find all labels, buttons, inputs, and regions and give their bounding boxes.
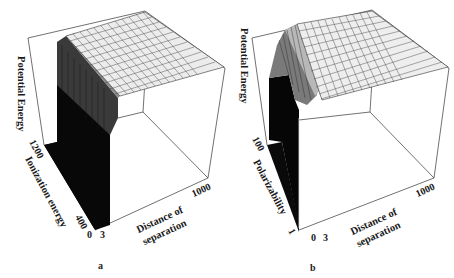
- chart-panel-b: Potential Energy 100 Polarizability 1 0 …: [227, 0, 454, 278]
- z-axis-label: Potential Energy: [239, 28, 250, 104]
- z-axis-label: Potential Energy: [16, 56, 27, 132]
- origin-tick: 0: [87, 230, 92, 240]
- x-tick-low: 3: [100, 230, 105, 240]
- x-tick-low: 3: [323, 233, 328, 243]
- origin-tick: 0: [311, 233, 316, 243]
- panel-caption: b: [310, 262, 316, 273]
- chart-panel-a: Potential Energy 1200 Ionization energy …: [0, 0, 227, 278]
- panel-caption: a: [98, 260, 103, 271]
